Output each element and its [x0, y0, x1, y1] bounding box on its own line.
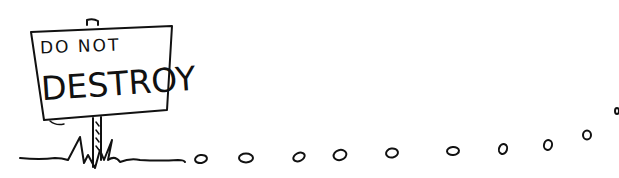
pebble	[332, 148, 347, 161]
pebble	[615, 108, 619, 114]
pebble	[498, 143, 509, 155]
pebble	[194, 154, 207, 164]
ground-grass	[20, 137, 185, 168]
pebble	[583, 131, 591, 140]
pebble	[385, 148, 398, 159]
post-top	[87, 19, 98, 25]
pebble	[292, 151, 306, 163]
pebble	[447, 146, 460, 155]
pebble	[239, 154, 253, 163]
sign-text-line1: DO NOT	[40, 35, 121, 58]
pebble	[543, 139, 553, 151]
